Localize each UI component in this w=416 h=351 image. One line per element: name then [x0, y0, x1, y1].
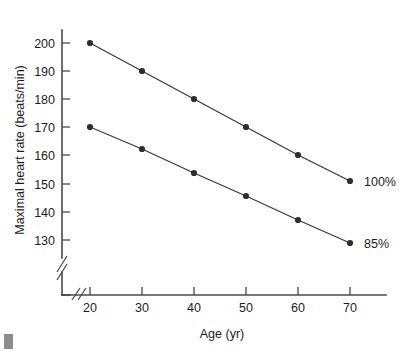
y-tick-label-140: 140 [34, 206, 55, 220]
y-tick-label-130: 130 [34, 234, 55, 248]
series-100-percent [87, 40, 353, 184]
data-point [243, 193, 249, 199]
data-point [191, 96, 197, 102]
y-tick-marks [62, 43, 70, 240]
data-point [347, 178, 353, 184]
y-tick-label-200: 200 [34, 37, 55, 51]
data-point [295, 152, 301, 158]
y-tick-label-170: 170 [34, 121, 55, 135]
chart-figure: 200 190 180 170 160 150 140 130 20 30 40… [0, 0, 416, 351]
series-85-percent-line [90, 127, 350, 243]
x-tick-label-50: 50 [239, 301, 253, 315]
y-axis-title: Maximal heart rate (beats/min) [13, 65, 27, 235]
maximal-heart-rate-line-chart: 200 190 180 170 160 150 140 130 20 30 40… [0, 0, 416, 351]
x-tick-label-30: 30 [135, 301, 149, 315]
data-point [243, 124, 249, 130]
x-tick-label-20: 20 [83, 301, 97, 315]
x-tick-label-70: 70 [343, 301, 357, 315]
data-point [87, 40, 93, 46]
data-point [295, 217, 301, 223]
series-85-percent [87, 124, 353, 246]
x-tick-marks [90, 287, 350, 295]
y-tick-label-160: 160 [34, 149, 55, 163]
series-label-100-percent: 100% [364, 175, 396, 189]
data-point [139, 68, 145, 74]
data-point [87, 124, 93, 130]
y-tick-label-150: 150 [34, 178, 55, 192]
series-100-percent-line [90, 43, 350, 181]
y-tick-label-180: 180 [34, 93, 55, 107]
page-corner-mark [4, 334, 13, 349]
data-point [191, 170, 197, 176]
x-axis-break-icon [72, 288, 86, 300]
x-axis-title: Age (yr) [200, 327, 244, 341]
x-tick-label-40: 40 [187, 301, 201, 315]
data-point [347, 240, 353, 246]
x-tick-label-60: 60 [291, 301, 305, 315]
axes-group [62, 30, 386, 295]
y-tick-label-190: 190 [34, 65, 55, 79]
data-point [139, 146, 145, 152]
series-label-85-percent: 85% [364, 237, 389, 251]
